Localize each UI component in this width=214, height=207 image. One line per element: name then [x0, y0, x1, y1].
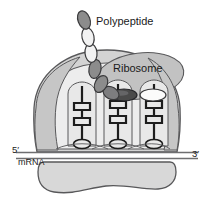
- small-subunit: [38, 162, 176, 193]
- ribosome-label: Ribosome: [113, 62, 163, 74]
- a-site-oval: [140, 89, 166, 101]
- mrna-label: mRNA: [18, 157, 45, 167]
- three-prime-label: 3′: [192, 148, 199, 159]
- polypeptide-bead-1: [75, 9, 93, 31]
- polypeptide-label: Polypeptide: [96, 15, 154, 27]
- diagram-canvas: Polypeptide Ribosome 5′ 3′ mRNA: [0, 0, 214, 207]
- ribosome-translation-diagram: Polypeptide Ribosome 5′ 3′ mRNA: [0, 0, 214, 207]
- five-prime-label: 5′: [12, 144, 19, 155]
